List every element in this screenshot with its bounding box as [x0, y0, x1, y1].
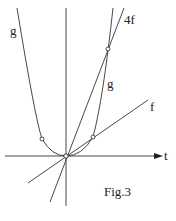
point-g-f-right	[91, 135, 95, 139]
figure-canvas: g 4f g f t Fig.3	[0, 0, 176, 221]
label-g-left: g	[10, 23, 17, 38]
point-g-4f	[106, 47, 110, 51]
line-f	[28, 100, 148, 183]
t-axis-arrow-icon	[154, 153, 163, 159]
label-4f: 4f	[124, 12, 136, 27]
label-f: f	[150, 99, 155, 114]
point-g-f-left	[40, 137, 44, 141]
line-4f	[50, 8, 124, 202]
label-g-right: g	[107, 76, 114, 91]
point-origin	[64, 154, 68, 158]
label-t-axis: t	[164, 148, 168, 163]
figure-caption: Fig.3	[104, 184, 131, 199]
